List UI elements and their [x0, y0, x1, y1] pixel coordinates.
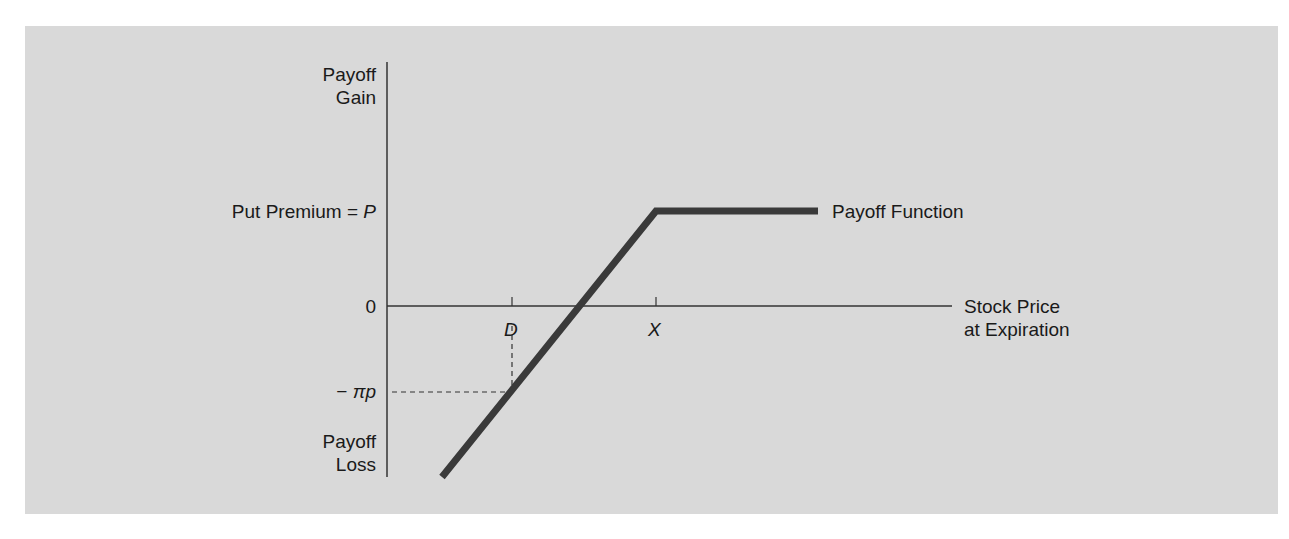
minus-sign: − — [336, 381, 352, 402]
y-label-loss-line1: Payoff — [300, 430, 376, 453]
y-tick-neg-pi-p: − πp — [300, 380, 376, 403]
y-label-gain: Payoff Gain — [300, 63, 376, 109]
x-axis-label-line2: at Expiration — [964, 318, 1070, 341]
y-tick-zero: 0 — [340, 295, 376, 318]
y-label-loss-line2: Loss — [300, 453, 376, 476]
x-tick-x-label: X — [648, 318, 661, 341]
y-label-loss: Payoff Loss — [300, 430, 376, 476]
y-label-gain-line2: Gain — [300, 86, 376, 109]
premium-symbol: P — [363, 201, 376, 222]
x-axis-label: Stock Price at Expiration — [964, 295, 1070, 341]
x-tick-d-label: D — [504, 318, 518, 341]
premium-text: Put Premium = — [232, 201, 363, 222]
series-label: Payoff Function — [832, 200, 964, 223]
y-tick-premium: Put Premium = P — [150, 200, 376, 223]
payoff-chart — [0, 0, 1289, 539]
payoff-function-line — [442, 211, 818, 477]
pi-p-symbol: πp — [353, 381, 376, 402]
y-label-gain-line1: Payoff — [300, 63, 376, 86]
x-axis-label-line1: Stock Price — [964, 295, 1070, 318]
